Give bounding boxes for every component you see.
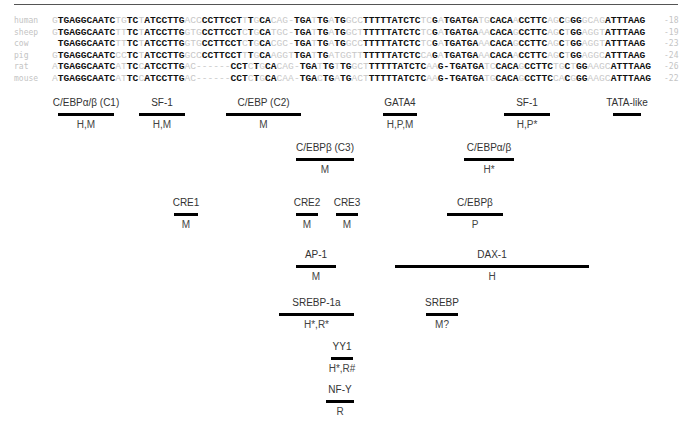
conserved-segment: TTTTTATCTC: [363, 50, 421, 61]
variable-segment: AT: [115, 61, 127, 72]
site-label: GATA4: [343, 96, 457, 109]
variable-segment: TT: [115, 27, 127, 38]
variable-segment: AGGT: [271, 50, 294, 61]
conserved-segment: GG: [576, 61, 588, 72]
variable-segment: AGGT: [582, 38, 605, 49]
conserved-segment: ATCCTTG: [144, 27, 184, 38]
variable-segment: TG: [553, 61, 565, 72]
conserved-segment: ATCCTTG: [144, 50, 184, 61]
variable-segment: AG: [547, 15, 559, 26]
conserved-segment: TG: [317, 15, 329, 26]
variable-segment: TG: [115, 15, 127, 26]
conserved-segment: TGA: [294, 50, 311, 61]
conserved-segment: CCTTC: [519, 38, 548, 49]
site-label: SREBP: [386, 296, 498, 309]
position-label: -18: [664, 15, 678, 27]
variable-segment: GCAG: [582, 15, 605, 26]
site-bar: [279, 313, 354, 316]
site-bar: [296, 158, 354, 161]
variable-segment: AAGC: [588, 73, 611, 84]
conserved-segment: TC: [127, 50, 139, 61]
conserved-segment: CCTTCCT: [202, 15, 242, 26]
binding-site: SREBP-1aH*,R*: [239, 296, 394, 331]
site-species: H: [355, 271, 629, 283]
conserved-segment: TC: [127, 73, 139, 84]
sequence: GTGAGGCAATCTTTCTATCCTTGGTGCCTTCCTCTGCATG…: [52, 27, 645, 39]
conserved-segment: TGATGA: [449, 73, 484, 84]
conserved-segment: CCTTC: [518, 50, 547, 61]
top-rule: [14, 4, 678, 5]
variable-segment: TC: [421, 27, 433, 38]
conserved-segment: TGATGA: [444, 15, 479, 26]
conserved-segment: CCTTCCT: [202, 27, 242, 38]
variable-segment: AA: [478, 27, 490, 38]
site-bar: [464, 158, 514, 161]
variable-segment: AGGT: [582, 27, 605, 38]
site-species: H,P*: [464, 119, 590, 131]
variable-segment: CAG-: [277, 61, 300, 72]
conserved-segment: TGAGGCAATC: [58, 15, 116, 26]
conserved-segment: TGAGGCAATC: [58, 73, 116, 84]
site-species: M: [296, 219, 398, 231]
site-species: H,P,M: [343, 119, 457, 131]
site-label: C/EBPα/β: [424, 141, 554, 154]
conserved-segment: ATTTAAG: [605, 15, 645, 26]
conserved-segment: TG: [334, 15, 346, 26]
conserved-segment: TGA: [294, 15, 311, 26]
sequence: GTGAGGCAATCTGTCTATCCTTGACCCCTTCCTTTGCACA…: [52, 15, 645, 27]
variable-segment: CC: [115, 50, 127, 61]
site-bar: [331, 357, 353, 360]
conserved-segment: TGA: [300, 73, 317, 84]
site-label: NF-Y: [286, 383, 394, 396]
conserved-segment: CACA: [490, 15, 513, 26]
site-species: H*: [424, 164, 554, 176]
variable-segment: CA: [553, 73, 565, 84]
variable-segment: GCC: [346, 15, 363, 26]
site-bar: [226, 113, 301, 116]
conserved-segment: TG: [323, 61, 335, 72]
conserved-segment: CA: [265, 61, 277, 72]
sequence: GTGAGGCAATCCCTCTATCCTTGGCCCCTTCCTTTGCAAG…: [52, 50, 645, 62]
site-species: M: [134, 219, 238, 231]
site-bar: [336, 213, 358, 216]
site-species: H*,R*: [239, 319, 394, 331]
conserved-segment: CCT: [231, 73, 248, 84]
conserved-segment: TG: [323, 73, 335, 84]
conserved-segment: TG: [334, 27, 346, 38]
conserved-segment: CACA: [495, 61, 518, 72]
conserved-segment: CA: [259, 38, 271, 49]
site-bar: [426, 313, 458, 316]
variable-segment: AC------: [184, 61, 230, 72]
variable-segment: GTG: [184, 38, 201, 49]
conserved-segment: TGA: [294, 27, 311, 38]
conserved-segment: TGA: [300, 61, 317, 72]
conserved-segment: TGATGA: [444, 50, 479, 61]
site-label: YY1: [291, 340, 393, 353]
site-label: SREBP-1a: [239, 296, 394, 309]
variable-segment: AGGC: [582, 50, 605, 61]
conserved-segment: TG: [317, 50, 329, 61]
variable-segment: TC: [484, 61, 496, 72]
variable-segment: AG: [547, 27, 559, 38]
variable-segment: GTG: [184, 27, 201, 38]
site-label: DAX-1: [355, 248, 629, 261]
conserved-segment: CCT: [231, 61, 248, 72]
variable-segment: AG: [547, 50, 559, 61]
site-bar: [395, 265, 589, 268]
variable-segment: GCT: [351, 61, 368, 72]
conserved-segment: TG: [317, 38, 329, 49]
conserved-segment: ATCCTTG: [144, 15, 184, 26]
variable-segment: AAGC: [588, 61, 611, 72]
variable-segment: ACT: [351, 73, 368, 84]
site-species: H*,R#: [291, 363, 393, 375]
position-label: -19: [664, 27, 678, 39]
conserved-segment: ATCCTTG: [144, 38, 184, 49]
variable-segment: AA: [478, 50, 490, 61]
binding-site: C/EBPβ (C3)M: [256, 141, 394, 176]
site-label: SF-1: [464, 96, 590, 109]
conserved-segment: TGATGA: [449, 61, 484, 72]
position-label: -22: [664, 73, 678, 85]
site-species: M: [186, 119, 341, 131]
site-bar: [383, 113, 417, 116]
variable-segment: TC: [421, 38, 433, 49]
